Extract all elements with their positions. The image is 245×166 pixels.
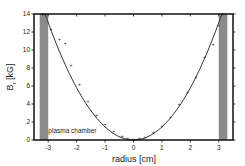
data-point: +	[178, 101, 181, 107]
x-tick-label: 2	[189, 144, 193, 151]
chamber-wall-regions	[40, 14, 228, 140]
data-point: +	[50, 26, 53, 32]
y-tick-label: 0	[26, 136, 30, 143]
y-axis-ticks: 02468101214	[23, 10, 236, 143]
chamber-wall-right	[219, 14, 228, 140]
x-tick-label: -2	[74, 144, 80, 151]
x-tick-label: 1	[160, 144, 164, 151]
data-point: +	[203, 54, 206, 60]
y-tick-label: 4	[26, 100, 30, 107]
chart: ++++++++++++++++++++++++ -3-2-10123 0246…	[0, 0, 245, 166]
data-points: ++++++++++++++++++++++++	[41, 11, 220, 142]
plasma-chamber-label: plasma chamber	[48, 127, 97, 135]
x-tick-label: -3	[45, 144, 51, 151]
plot-frame	[34, 14, 233, 140]
y-tick-label: 6	[26, 82, 30, 89]
x-tick-label: 3	[217, 144, 221, 151]
y-tick-label: 10	[23, 46, 31, 53]
x-tick-label: 0	[132, 144, 136, 151]
x-axis-label: radius [cm]	[112, 154, 156, 164]
data-point: +	[64, 40, 67, 46]
data-point: +	[169, 114, 172, 120]
data-point: +	[121, 133, 124, 139]
y-tick-label: 12	[23, 28, 31, 35]
y-axis-label-unit: [kG]	[5, 63, 15, 82]
y-tick-label: 2	[26, 118, 30, 125]
data-point: +	[112, 128, 115, 134]
data-point: +	[160, 123, 163, 129]
data-point: +	[58, 36, 61, 42]
data-point: +	[195, 74, 198, 80]
data-point: +	[217, 22, 220, 28]
y-tick-label: 14	[23, 10, 31, 17]
y-tick-label: 8	[26, 64, 30, 71]
data-point: +	[69, 62, 72, 68]
data-point: +	[104, 121, 107, 127]
data-point: +	[95, 112, 98, 118]
data-point: +	[212, 41, 215, 47]
data-point: +	[186, 89, 189, 95]
svg-text:Br [kG]: Br [kG]	[5, 63, 17, 90]
data-point: +	[78, 81, 81, 87]
data-point: +	[152, 129, 155, 135]
data-point: +	[87, 98, 90, 104]
x-tick-label: -1	[102, 144, 108, 151]
chamber-wall-left	[40, 14, 49, 140]
y-axis-label: Br [kG]	[5, 63, 17, 90]
